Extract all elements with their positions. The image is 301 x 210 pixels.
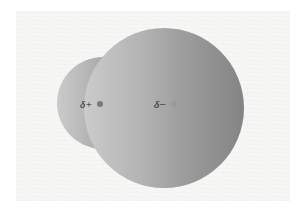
nucleus-dot-delta-minus (171, 101, 177, 107)
charge-label-delta-minus: δ− (154, 99, 167, 110)
charge-label-delta-plus: δ+ (80, 99, 93, 110)
nucleus-dot-delta-plus (97, 101, 103, 107)
molecule-diagram (0, 0, 301, 210)
figure-canvas: δ+ δ− (0, 0, 301, 210)
